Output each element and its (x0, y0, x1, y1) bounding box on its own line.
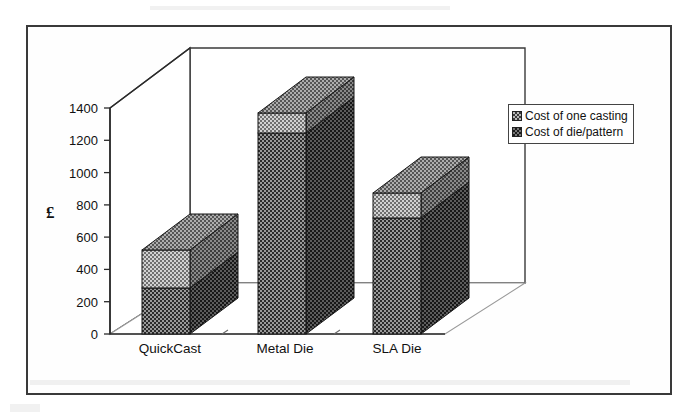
chart-outer-frame (26, 25, 672, 395)
y-tick-label: 0 (52, 327, 98, 342)
y-tick-label: 1200 (52, 133, 98, 148)
scan-smudge (150, 6, 450, 10)
x-tick-label-quickcast: QuickCast (118, 341, 222, 356)
legend-item-die: Cost of die/pattern (512, 124, 628, 140)
y-tick-label: 1000 (52, 166, 98, 181)
x-tick-label-sla-die: SLA Die (345, 341, 449, 356)
y-tick-label: 600 (52, 230, 98, 245)
y-tick-label: 1400 (52, 101, 98, 116)
chart-canvas: 1400 1200 1000 800 600 400 200 0 £ Quick… (0, 0, 694, 415)
legend-label-casting: Cost of one casting (525, 109, 628, 123)
legend-swatch-die-icon (512, 127, 522, 137)
legend-swatch-casting-icon (512, 111, 522, 121)
x-tick-label-metal-die: Metal Die (233, 341, 337, 356)
legend-item-casting: Cost of one casting (512, 108, 628, 124)
scan-smudge (10, 404, 40, 412)
y-tick-label: 800 (52, 198, 98, 213)
y-tick-label: 400 (52, 262, 98, 277)
chart-legend: Cost of one casting Cost of die/pattern (508, 104, 634, 144)
y-axis-title: £ (46, 203, 55, 223)
legend-label-die: Cost of die/pattern (525, 125, 623, 139)
y-tick-label: 200 (52, 295, 98, 310)
